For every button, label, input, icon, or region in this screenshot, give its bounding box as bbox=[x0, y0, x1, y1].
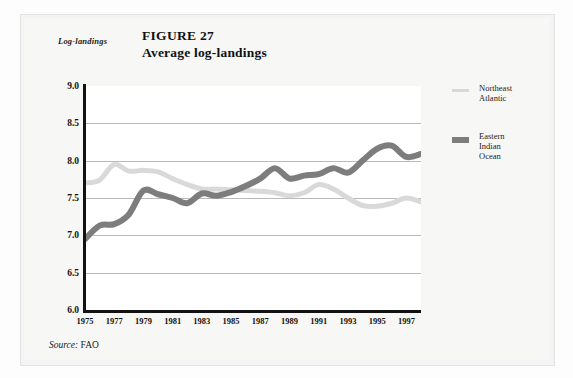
x-tick-label: 1989 bbox=[281, 316, 298, 326]
x-tick-label: 1985 bbox=[223, 316, 240, 326]
plot-area bbox=[85, 86, 421, 310]
y-axis-ticks: 9.08.58.07.57.06.56.0 bbox=[49, 86, 79, 310]
source-note: Source: FAO bbox=[49, 340, 99, 350]
legend-swatch-icon bbox=[452, 137, 469, 143]
legend-label: EasternIndianOcean bbox=[479, 131, 549, 161]
x-axis-ticks: 1975197719791981198319851987198919911993… bbox=[85, 316, 421, 330]
y-tick-label: 9.0 bbox=[51, 81, 79, 91]
figure-title-block: FIGURE 27 Average log-landings bbox=[142, 28, 267, 61]
x-tick-label: 1987 bbox=[252, 316, 269, 326]
x-axis-line bbox=[83, 310, 421, 313]
figure-number: FIGURE 27 bbox=[142, 28, 267, 44]
legend-swatch-icon bbox=[452, 89, 469, 92]
figure-title: Average log-landings bbox=[142, 44, 267, 61]
chart-legend: NortheastAtlanticEasternIndianOcean bbox=[452, 84, 552, 180]
figure-page: Log-landings FIGURE 27 Average log-landi… bbox=[0, 0, 573, 378]
y-tick-label: 8.0 bbox=[51, 156, 79, 166]
x-tick-label: 1993 bbox=[339, 316, 356, 326]
y-tick-label: 7.0 bbox=[51, 230, 79, 240]
x-tick-label: 1997 bbox=[398, 316, 415, 326]
y-tick-label: 8.5 bbox=[51, 118, 79, 128]
x-tick-label: 1975 bbox=[77, 316, 94, 326]
legend-label-line: Eastern bbox=[479, 131, 549, 141]
x-tick-label: 1981 bbox=[164, 316, 181, 326]
y-axis-line bbox=[83, 84, 86, 313]
x-tick-label: 1991 bbox=[310, 316, 327, 326]
source-label: Source: bbox=[49, 340, 78, 350]
legend-label-line: Atlantic bbox=[479, 93, 549, 103]
y-axis-caption: Log-landings bbox=[58, 36, 107, 46]
y-tick-label: 6.5 bbox=[51, 268, 79, 278]
series-canvas bbox=[85, 86, 421, 310]
legend-label-line: Indian bbox=[479, 141, 549, 151]
legend-item[interactable]: EasternIndianOcean bbox=[452, 132, 552, 154]
x-tick-label: 1979 bbox=[135, 316, 152, 326]
legend-label-line: Ocean bbox=[479, 151, 549, 161]
y-tick-label: 6.0 bbox=[51, 305, 79, 315]
source-value: FAO bbox=[78, 340, 99, 350]
x-tick-label: 1977 bbox=[106, 316, 123, 326]
legend-label: NortheastAtlantic bbox=[479, 83, 549, 103]
legend-item[interactable]: NortheastAtlantic bbox=[452, 84, 552, 106]
y-tick-label: 7.5 bbox=[51, 193, 79, 203]
x-tick-label: 1983 bbox=[193, 316, 210, 326]
x-tick-label: 1995 bbox=[369, 316, 386, 326]
legend-label-line: Northeast bbox=[479, 83, 549, 93]
